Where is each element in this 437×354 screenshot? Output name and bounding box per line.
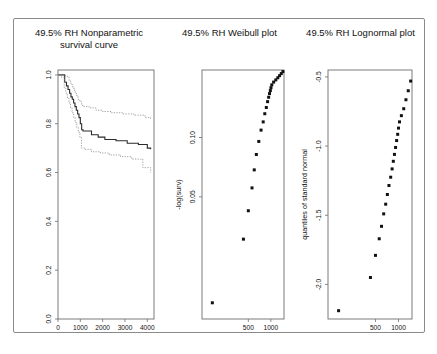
y-tick-label: 0.0 bbox=[45, 314, 52, 323]
data-point bbox=[270, 83, 273, 86]
survival-curve bbox=[58, 75, 151, 149]
y-tick-label: -0.5 bbox=[315, 71, 322, 83]
data-point bbox=[380, 225, 383, 228]
data-point bbox=[402, 107, 405, 110]
data-point bbox=[393, 153, 396, 156]
data-point bbox=[378, 237, 381, 240]
data-point bbox=[384, 203, 387, 206]
data-point bbox=[269, 89, 272, 92]
data-point bbox=[369, 276, 372, 279]
x-tick-label: 500 bbox=[370, 324, 381, 331]
data-point bbox=[394, 146, 397, 149]
y-tick-label: 0.4 bbox=[45, 216, 52, 225]
y-tick-label: -1.0 bbox=[315, 140, 322, 152]
panel-lognormal: 49.5% RH Lognormal plot 5001000time-2.0-… bbox=[295, 19, 426, 334]
x-tick-label: 1000 bbox=[264, 324, 279, 331]
data-point bbox=[337, 309, 340, 312]
y-tick-label: 1.0 bbox=[45, 70, 52, 79]
panel-weibull: 49.5% RH Weibull plot 5001000time0.050.1… bbox=[164, 19, 295, 334]
y-tick-label: -2.0 bbox=[315, 278, 322, 290]
data-point bbox=[260, 129, 263, 132]
panel-1-plot: 010002000300040000.00.20.40.60.81.0 bbox=[14, 19, 164, 334]
data-point bbox=[242, 238, 245, 241]
data-point bbox=[391, 167, 394, 170]
data-point bbox=[266, 100, 269, 103]
data-point bbox=[253, 168, 256, 171]
data-point bbox=[395, 139, 398, 142]
y-tick-label: 0.05 bbox=[189, 190, 196, 203]
x-tick-label: 1000 bbox=[73, 324, 88, 331]
y-tick-label: 0.8 bbox=[45, 119, 52, 128]
data-point bbox=[409, 80, 412, 83]
x-tick-label: 3000 bbox=[118, 324, 133, 331]
data-point bbox=[267, 96, 270, 99]
data-point bbox=[211, 301, 214, 304]
x-tick-label: 1000 bbox=[391, 324, 406, 331]
data-point bbox=[262, 120, 265, 123]
data-point bbox=[265, 106, 268, 109]
data-point bbox=[404, 98, 407, 101]
data-point bbox=[407, 89, 410, 92]
data-point bbox=[247, 209, 250, 212]
confidence-band-2 bbox=[58, 75, 151, 173]
data-point bbox=[397, 127, 400, 130]
y-tick-label: 0.6 bbox=[45, 168, 52, 177]
data-point bbox=[281, 70, 284, 73]
x-tick-label: 0 bbox=[56, 324, 60, 331]
x-tick-label: 2000 bbox=[95, 324, 110, 331]
plot-box bbox=[58, 70, 154, 319]
data-point bbox=[389, 176, 392, 179]
x-tick-label: 4000 bbox=[140, 324, 155, 331]
y-tick-label: 0.10 bbox=[189, 131, 196, 144]
panel-3-plot: 5001000time-2.0-1.5-1.0-0.5quantiles of … bbox=[295, 19, 426, 334]
data-point bbox=[374, 254, 377, 257]
data-point bbox=[269, 86, 272, 89]
y-tick-label: 0.2 bbox=[45, 265, 52, 274]
figure-frame: 49.5% RH Nonparametric survival curve 01… bbox=[13, 18, 425, 333]
panel-2-plot: 5001000time0.050.10-log(surv) bbox=[164, 19, 295, 334]
data-point bbox=[255, 153, 258, 156]
data-point bbox=[400, 114, 403, 117]
plot-box bbox=[202, 70, 284, 319]
panel-nonparametric-survival: 49.5% RH Nonparametric survival curve 01… bbox=[14, 19, 164, 334]
plot-box bbox=[328, 70, 412, 319]
data-point bbox=[263, 112, 266, 115]
data-point bbox=[392, 160, 395, 163]
y-axis-title: -log(surv) bbox=[174, 179, 183, 209]
data-point bbox=[382, 212, 385, 215]
data-point bbox=[396, 133, 399, 136]
y-tick-label: -1.5 bbox=[315, 209, 322, 221]
data-point bbox=[386, 193, 389, 196]
x-tick-label: 500 bbox=[243, 324, 254, 331]
data-point bbox=[257, 140, 260, 143]
y-axis-title: quantiles of standard normal bbox=[300, 149, 309, 240]
data-point bbox=[251, 186, 254, 189]
data-point bbox=[387, 184, 390, 187]
data-point bbox=[398, 120, 401, 123]
data-point bbox=[268, 92, 271, 95]
